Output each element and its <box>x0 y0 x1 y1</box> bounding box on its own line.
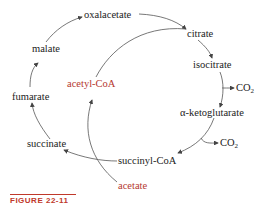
co2-subscript: 2 <box>235 142 239 150</box>
arrow-fumarate-malate <box>30 63 38 87</box>
co2-text: CO <box>236 82 251 93</box>
caption-rule <box>10 194 76 195</box>
node-succinyl-coa: succinyl-CoA <box>118 156 176 167</box>
arrow-co2-2 <box>201 138 218 143</box>
node-isocitrate: isocitrate <box>193 60 231 71</box>
arrow-acetate-acetylcoa <box>88 100 117 182</box>
node-citrate: citrate <box>187 29 213 40</box>
co2-text: CO <box>220 137 235 148</box>
arrow-succinylcoa-succinate <box>64 150 117 161</box>
arrow-akg-succinylcoa <box>178 118 214 153</box>
product-co2-2: CO2 <box>220 138 238 150</box>
arrow-malate-oxalacetate <box>46 17 82 42</box>
node-malate: malate <box>32 44 60 55</box>
figure-caption: FIGURE 22-11 <box>10 197 68 203</box>
product-co2-1: CO2 <box>236 83 254 95</box>
node-acetate: acetate <box>118 181 147 192</box>
node-alpha-ketoglutarate: α-ketoglutarate <box>180 108 244 119</box>
arrow-citrate-isocitrate <box>198 40 212 58</box>
co2-subscript: 2 <box>251 87 255 95</box>
node-succinate: succinate <box>27 139 66 150</box>
node-oxalacetate: oxalacetate <box>84 10 131 21</box>
arrow-oxalacetate-citrate <box>139 14 186 29</box>
arrow-succinate-fumarate <box>32 103 50 139</box>
node-fumarate: fumarate <box>12 92 49 103</box>
arrow-acetylcoa-citrate <box>96 29 186 77</box>
node-acetyl-coa: acetyl-CoA <box>67 79 115 90</box>
arrow-isocitrate-akg <box>220 72 223 107</box>
